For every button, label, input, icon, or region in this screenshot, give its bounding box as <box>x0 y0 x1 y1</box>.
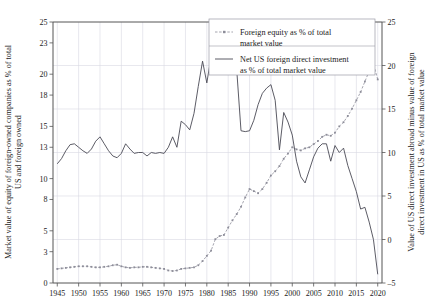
series-marker <box>313 143 315 145</box>
series-marker <box>261 188 263 190</box>
y-left-tick-label: 3 <box>44 248 48 257</box>
series-marker <box>185 267 187 269</box>
y-left-tick-label: 0 <box>44 279 48 288</box>
series-marker <box>197 264 199 266</box>
series-marker <box>112 264 114 266</box>
series-marker <box>219 235 221 237</box>
y-axis-left-ticks: 035810131518202325 <box>40 18 54 288</box>
series-marker <box>296 148 298 150</box>
series-marker <box>317 140 319 142</box>
y-left-tick-label: 18 <box>40 91 48 100</box>
x-tick-label: 2010 <box>327 289 343 298</box>
series-marker <box>142 266 144 268</box>
x-tick-label: 2020 <box>370 289 386 298</box>
chart-container: 1945195019551960196519701975198019851990… <box>0 0 439 308</box>
series-marker <box>116 264 118 266</box>
y-left-tick-label: 5 <box>44 227 48 236</box>
series-marker <box>91 266 93 268</box>
series-marker <box>326 134 328 136</box>
series-marker <box>202 260 204 262</box>
chart-svg: 1945195019551960196519701975198019851990… <box>0 0 439 308</box>
x-tick-label: 1950 <box>71 289 87 298</box>
x-tick-label: 1965 <box>135 289 151 298</box>
series-marker <box>360 91 362 93</box>
x-tick-label: 1945 <box>49 289 65 298</box>
series-marker <box>304 147 306 149</box>
y-left-tick-label: 25 <box>40 18 48 27</box>
axis-title-text: Value of US direct investment abroad min… <box>407 52 426 251</box>
series-marker <box>343 121 345 123</box>
series-marker <box>355 99 357 101</box>
y-right-tick-label: 20 <box>388 62 396 71</box>
legend-label-line2: market value <box>240 39 283 48</box>
series-marker <box>351 108 353 110</box>
series-marker <box>193 266 195 268</box>
x-tick-label: 1955 <box>92 289 108 298</box>
x-tick-label: 1995 <box>263 289 279 298</box>
series-marker <box>146 266 148 268</box>
series-marker <box>180 268 182 270</box>
series-marker <box>236 213 238 215</box>
legend-label-line1: Net US foreign direct investment <box>240 55 349 64</box>
series-marker <box>69 266 71 268</box>
series-marker <box>214 238 216 240</box>
y-right-tick-label: –5 <box>387 279 396 288</box>
series-marker <box>347 115 349 117</box>
series-marker <box>176 270 178 272</box>
series-marker <box>129 267 131 269</box>
y-right-tick-label: 10 <box>388 149 396 158</box>
series-marker <box>172 270 174 272</box>
series-marker <box>82 265 84 267</box>
series-marker <box>120 265 122 267</box>
series-marker <box>330 135 332 137</box>
series-marker <box>150 266 152 268</box>
series-marker <box>163 268 165 270</box>
y-left-tick-label: 23 <box>40 39 48 48</box>
legend-label-line1: Foreign equity as % of total <box>240 28 332 37</box>
x-tick-label: 1960 <box>113 289 129 298</box>
y-right-tick-label: 5 <box>388 192 392 201</box>
series-marker <box>257 192 259 194</box>
series-marker <box>125 266 127 268</box>
y-left-tick-label: 15 <box>40 122 48 131</box>
series-marker <box>223 234 225 236</box>
series-marker <box>279 165 281 167</box>
series-marker <box>287 153 289 155</box>
series-marker <box>189 267 191 269</box>
series-marker <box>210 250 212 252</box>
x-tick-label: 2000 <box>284 289 300 298</box>
series-marker <box>99 266 101 268</box>
series-marker <box>78 265 80 267</box>
series-marker <box>133 266 135 268</box>
series-marker <box>86 265 88 267</box>
series-marker <box>338 126 340 128</box>
x-tick-label: 1990 <box>242 289 258 298</box>
y-right-tick-label: 15 <box>388 105 396 114</box>
series-marker <box>274 170 276 172</box>
series-marker <box>227 227 229 229</box>
series-marker <box>108 265 110 267</box>
series-marker <box>65 267 67 269</box>
series-marker <box>95 266 97 268</box>
series-marker <box>249 188 251 190</box>
series-marker <box>155 267 157 269</box>
series-marker <box>291 146 293 148</box>
y-left-tick-label: 10 <box>40 175 48 184</box>
series-marker <box>253 190 255 192</box>
x-tick-label: 2005 <box>306 289 322 298</box>
axis-titles: Market value of equity of foreign-owned … <box>4 44 426 259</box>
series-marker <box>300 150 302 152</box>
x-tick-label: 1975 <box>177 289 193 298</box>
series-marker <box>56 268 58 270</box>
series-line-1 <box>57 64 377 271</box>
series-marker <box>377 79 379 81</box>
series-marker <box>244 196 246 198</box>
x-axis-ticks: 1945195019551960196519701975198019851990… <box>49 283 385 298</box>
series-marker <box>364 81 366 83</box>
series-marker <box>283 158 285 160</box>
series-marker <box>159 267 161 269</box>
legend-label-line2: as % of total market value <box>240 66 326 75</box>
y-axis-right-ticks: –50510152025 <box>382 18 396 288</box>
chart-legend: Foreign equity as % of totalmarket value… <box>209 19 375 75</box>
series-marker <box>308 146 310 148</box>
